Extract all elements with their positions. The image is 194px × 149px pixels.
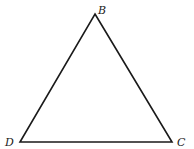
triangle-diagram: B D C bbox=[0, 0, 194, 149]
vertex-label-b: B bbox=[97, 4, 106, 17]
triangle-bdc bbox=[20, 14, 172, 142]
vertex-label-c: C bbox=[177, 136, 186, 149]
vertex-label-d: D bbox=[4, 136, 14, 149]
